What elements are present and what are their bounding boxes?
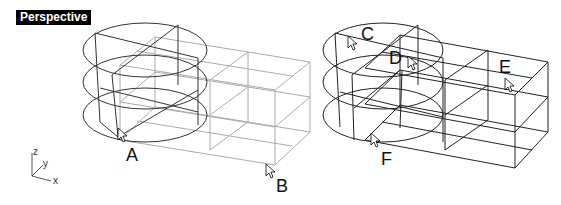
left-box-wireframe [120,37,310,165]
label-a: A [126,145,138,165]
axis-y-label: y [43,158,48,169]
label-c: C [361,24,374,44]
label-e: E [499,57,511,77]
right-cylinder-wireframe [323,23,443,142]
axis-indicator-icon [32,153,51,181]
label-f: F [381,149,392,169]
axis-z-label: z [33,146,38,157]
perspective-viewport[interactable]: Perspective [0,0,561,205]
left-cylinder-wireframe [83,23,207,142]
label-b: B [276,176,288,196]
label-d: D [389,48,402,68]
viewport-canvas[interactable]: A B C D E F z y x [0,0,561,205]
axis-x-label: x [53,175,58,186]
